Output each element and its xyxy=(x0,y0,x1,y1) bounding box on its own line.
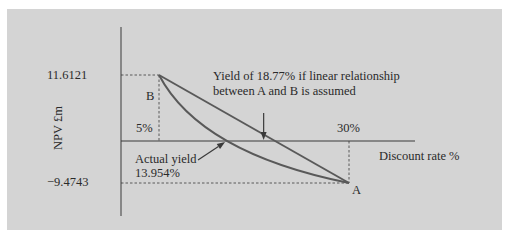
y-tick-label-b: 11.6121 xyxy=(47,68,87,82)
point-label-a: A xyxy=(352,183,361,197)
annotation-linear-line1: Yield of 18.77% if linear relationship xyxy=(213,69,400,83)
x-tick-label-5: 5% xyxy=(136,121,153,135)
arrow-actual-yield xyxy=(198,146,218,160)
annotation-linear-line2: between A and B is assumed xyxy=(213,84,356,98)
x-tick-label-30: 30% xyxy=(337,121,360,135)
x-axis-label: Discount rate % xyxy=(379,149,460,163)
npv-chart xyxy=(0,0,511,242)
y-tick-label-a: −9.4743 xyxy=(47,175,88,189)
annotation-actual-line2: 13.954% xyxy=(135,166,180,180)
y-axis-label: NPV £m xyxy=(51,106,66,150)
arrow-head-icon xyxy=(217,142,225,149)
point-label-b: B xyxy=(146,89,154,103)
annotation-actual-line1: Actual yield xyxy=(135,152,196,166)
